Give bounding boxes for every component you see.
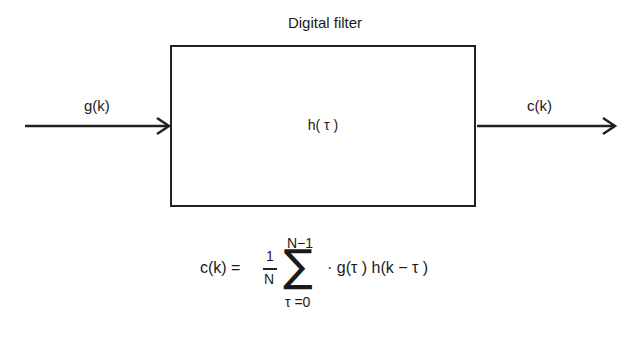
convolution-equation: c(k) = 1 N N−1 ∑ τ =0 · g(τ ) h(k − τ ): [195, 232, 495, 312]
fraction-denominator: N: [264, 271, 274, 287]
sum-lower-limit: τ =0: [285, 294, 310, 310]
fraction-numerator: 1: [266, 248, 274, 264]
equation-lhs: c(k) =: [200, 259, 240, 277]
input-arrow: [25, 118, 169, 134]
summation-icon: ∑: [283, 244, 313, 288]
equation-summand: · g(τ ) h(k − τ ): [327, 259, 428, 277]
output-arrow: [477, 118, 615, 134]
fraction-bar: [263, 268, 277, 270]
